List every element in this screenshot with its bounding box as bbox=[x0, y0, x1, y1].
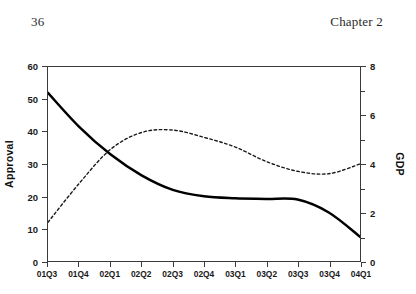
series-line-gdp bbox=[48, 130, 360, 223]
x-tick-label: 03Q1 bbox=[225, 269, 246, 279]
x-tick-mark bbox=[204, 262, 205, 267]
x-tick-label: 02Q4 bbox=[194, 269, 215, 279]
y-left-tick-label: 60 bbox=[27, 61, 38, 72]
x-tick-mark bbox=[267, 262, 268, 267]
x-tick-mark bbox=[141, 262, 142, 267]
y-left-tick-label: 20 bbox=[27, 191, 38, 202]
y-right-tick-label: 4 bbox=[370, 159, 375, 170]
x-tick-label: 02Q1 bbox=[100, 269, 121, 279]
x-tick-label: 02Q3 bbox=[162, 269, 183, 279]
x-tick-label: 03Q3 bbox=[288, 269, 309, 279]
running-head: 36 Chapter 2 bbox=[0, 14, 416, 34]
x-axis: 01Q301Q402Q102Q202Q302Q403Q103Q203Q303Q4… bbox=[47, 262, 361, 292]
y-axis-left: 0102030405060 bbox=[0, 66, 47, 262]
x-tick-mark bbox=[47, 262, 48, 267]
y-right-tick-label: 8 bbox=[370, 61, 375, 72]
x-tick-mark bbox=[330, 262, 331, 267]
y-left-tick-label: 0 bbox=[33, 257, 38, 268]
y-right-tick-mark bbox=[361, 213, 366, 214]
y-right-tick-label: 0 bbox=[370, 257, 375, 268]
y-axis-title-right: GDP bbox=[392, 66, 408, 262]
x-tick-label: 03Q2 bbox=[257, 269, 278, 279]
x-tick-mark bbox=[78, 262, 79, 267]
x-tick-mark bbox=[110, 262, 111, 267]
x-tick-label: 01Q4 bbox=[68, 269, 89, 279]
x-tick-label: 04Q1 bbox=[351, 269, 372, 279]
x-tick-label: 01Q3 bbox=[37, 269, 58, 279]
y-left-tick-label: 40 bbox=[27, 126, 38, 137]
y-left-tick-label: 10 bbox=[27, 224, 38, 235]
y-right-tick-mark bbox=[361, 66, 366, 67]
y-right-tick-mark bbox=[361, 238, 365, 239]
x-tick-mark bbox=[361, 262, 362, 267]
x-tick-label: 03Q4 bbox=[319, 269, 340, 279]
chapter-label: Chapter 2 bbox=[330, 14, 383, 30]
y-right-tick-mark bbox=[361, 140, 365, 141]
y-right-tick-mark bbox=[361, 164, 366, 165]
x-tick-label: 02Q2 bbox=[131, 269, 152, 279]
y-right-tick-label: 2 bbox=[370, 208, 375, 219]
x-tick-mark bbox=[235, 262, 236, 267]
chart-figure: Approval 0102030405060 02468 GDP 01Q301Q… bbox=[0, 52, 416, 294]
book-page: 36 Chapter 2 Approval 0102030405060 0246… bbox=[0, 0, 416, 294]
y-left-tick-label: 50 bbox=[27, 93, 38, 104]
y-axis-title-right-text: GDP bbox=[394, 152, 406, 176]
y-right-tick-mark bbox=[361, 91, 365, 92]
plot-area bbox=[47, 66, 361, 262]
y-left-tick-label: 30 bbox=[27, 159, 38, 170]
chart-lines bbox=[48, 67, 360, 261]
y-right-tick-mark bbox=[361, 189, 365, 190]
x-tick-mark bbox=[298, 262, 299, 267]
y-right-tick-mark bbox=[361, 115, 366, 116]
page-number: 36 bbox=[31, 14, 44, 30]
x-tick-mark bbox=[173, 262, 174, 267]
y-right-tick-label: 6 bbox=[370, 110, 375, 121]
